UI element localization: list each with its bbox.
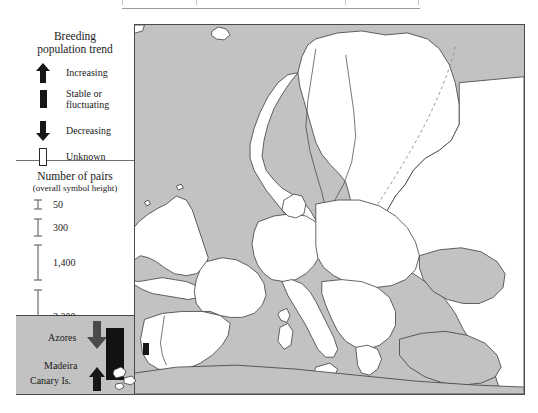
page-rule-tick <box>196 0 197 5</box>
legend-item-stable: Stable or fluctuating <box>16 86 134 112</box>
legend-item-increasing: Increasing <box>16 60 134 86</box>
scale-label-50: 50 <box>44 199 63 210</box>
scale-bar-icon <box>32 199 44 210</box>
map-symbol-portugal <box>143 343 149 355</box>
scale-item-50: 50 <box>32 199 63 210</box>
page-rule-tick <box>122 0 123 5</box>
inset-island-shapes <box>112 358 136 392</box>
inset-symbol-canary-islands <box>88 367 106 395</box>
inset-label-madeira: Madeira <box>44 360 77 371</box>
page-rule-tick <box>418 0 419 5</box>
legend-pairs-title: Number of pairs <box>16 168 134 183</box>
scale-bar-icon <box>32 218 44 237</box>
inset-label-canary-islands: Canary Is. <box>30 375 71 386</box>
scale-item-300: 300 <box>32 218 68 237</box>
legend-label-increasing: Increasing <box>56 67 108 79</box>
scale-label-1400: 1,400 <box>44 257 76 268</box>
scale-label-300: 300 <box>44 222 68 233</box>
legend-pairs-section: Number of pairs (overall symbol height) … <box>16 161 134 315</box>
legend-trend-title-line1: Breeding <box>16 24 134 43</box>
page-rule <box>122 8 420 9</box>
island-inset: Azores Madeira Canary Is. <box>16 316 135 395</box>
inset-label-azores: Azores <box>48 332 76 343</box>
legend-trend-section: Breeding population trend Increasing Sta… <box>16 24 134 161</box>
scale-item-1400: 1,400 <box>32 244 76 281</box>
legend-label-decreasing: Decreasing <box>56 125 111 137</box>
scale-bar-icon <box>32 244 44 281</box>
legend-trend-title-line2: population trend <box>16 43 134 56</box>
legend-label-stable-line1: Stable or <box>66 88 109 100</box>
bar-filled-icon <box>30 90 56 108</box>
inset-symbol-azores <box>86 321 108 353</box>
legend-item-decreasing: Decreasing <box>16 118 134 144</box>
legend-panel: Breeding population trend Increasing Sta… <box>16 24 135 316</box>
page-rule-tick <box>345 0 346 5</box>
legend-pairs-subtitle: (overall symbol height) <box>16 183 134 194</box>
legend-label-stable-line2: fluctuating <box>66 99 109 111</box>
arrow-down-icon <box>30 121 56 141</box>
arrow-up-icon <box>30 63 56 83</box>
